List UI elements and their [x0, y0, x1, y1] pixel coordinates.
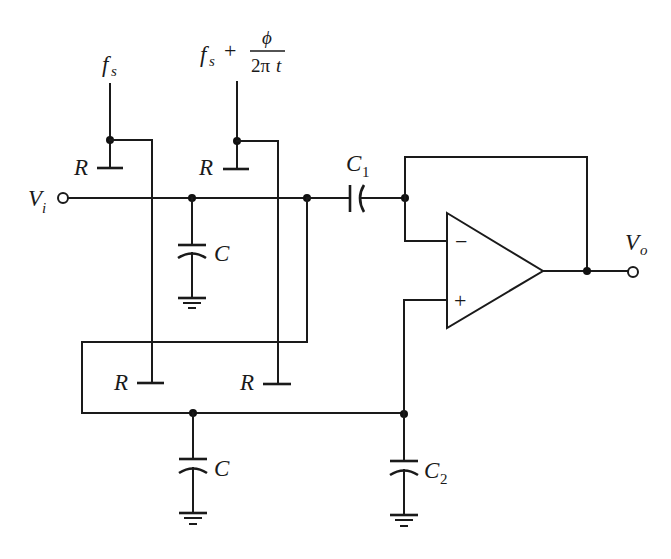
vout-label-sub: o: [640, 242, 648, 258]
c2-label: C: [424, 458, 440, 483]
input-terminal: [58, 193, 68, 203]
opamp-minus-sign: −: [455, 229, 467, 254]
output-node: [583, 267, 591, 275]
clock1-label-sub: s: [111, 63, 117, 79]
clock2-label-sub: s: [209, 53, 215, 69]
r-top-right-label: R: [198, 155, 213, 180]
output-terminal: [628, 267, 638, 277]
inverting-input-wire: [405, 198, 447, 241]
opamp-plus-sign: +: [454, 288, 466, 313]
vin-label-sub: i: [42, 200, 46, 216]
r-bottom-right-label: R: [239, 370, 254, 395]
circuit-schematic: V i f s R f s + ϕ 2π t R C R R C: [0, 0, 671, 559]
r-top-left-label: R: [73, 155, 88, 180]
clock2-plus: +: [224, 38, 236, 63]
clock2-numerator: ϕ: [262, 27, 272, 48]
feedback-wire: [405, 157, 587, 271]
ground-icon: [390, 515, 418, 526]
r-bottom-left-label: R: [113, 370, 128, 395]
c1-label-sub: 1: [362, 164, 370, 180]
ground-icon: [178, 298, 206, 308]
c2-label-sub: 2: [440, 471, 448, 487]
clock2-to-bottom-switch-wire: [237, 141, 278, 383]
clock2-denominator-t: t: [276, 55, 282, 76]
clock2-denominator: 2π: [251, 55, 271, 76]
c-bottom-label: C: [214, 456, 230, 481]
c1-label: C: [346, 151, 362, 176]
c-top-label: C: [214, 241, 230, 266]
ground-icon: [179, 513, 207, 524]
clock1-to-bottom-switch-wire: [110, 140, 152, 383]
